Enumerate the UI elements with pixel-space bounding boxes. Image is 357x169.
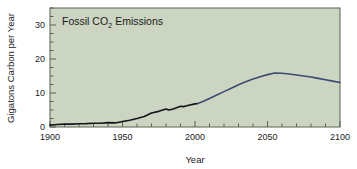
chart-title-tail: Emissions bbox=[112, 15, 163, 27]
x-tick-label: 1900 bbox=[40, 132, 60, 142]
chart-title-main: Fossil CO bbox=[62, 15, 108, 27]
x-axis-label: Year bbox=[185, 154, 204, 165]
y-tick-label: 30 bbox=[35, 20, 45, 30]
y-tick-label: 10 bbox=[35, 88, 45, 98]
y-tick-label: 0 bbox=[40, 122, 45, 132]
y-axis-label: Gigatons Carbon per Year bbox=[5, 13, 16, 123]
x-tick-label: 2050 bbox=[257, 132, 277, 142]
x-tick-label: 2000 bbox=[185, 132, 205, 142]
x-tick-label: 2100 bbox=[330, 132, 350, 142]
x-tick-label: 1950 bbox=[112, 132, 132, 142]
y-tick-label: 20 bbox=[35, 54, 45, 64]
fossil-co2-emissions-chart: 0102030 19001950200020502100 Fossil CO2 … bbox=[0, 0, 357, 169]
